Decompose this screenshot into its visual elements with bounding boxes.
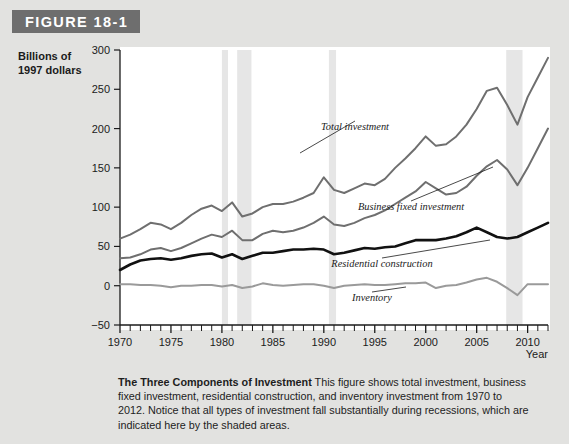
figure-container: FIGURE 18-1 Billions of 1997 dollars −50… xyxy=(0,0,569,444)
y-tick-label: 50 xyxy=(98,240,110,252)
x-axis-ticks: 197019751980198519901995200020052010 xyxy=(108,325,548,348)
x-tick-label: 2010 xyxy=(515,336,539,348)
x-tick-label: 1980 xyxy=(210,336,234,348)
x-tick-label: 1970 xyxy=(108,336,132,348)
x-tick-label: 1985 xyxy=(261,336,285,348)
x-tick-label: 1990 xyxy=(312,336,336,348)
y-tick-label: 150 xyxy=(92,162,110,174)
y-tick-label: 300 xyxy=(92,44,110,56)
y-tick-label: 0 xyxy=(104,280,110,292)
annotation-label: Business fixed investment xyxy=(358,201,465,212)
investment-line-chart: −50050100150200250300 197019751980198519… xyxy=(0,0,569,370)
y-axis-ticks: −50050100150200250300 xyxy=(91,44,120,331)
x-tick-label: 2005 xyxy=(464,336,488,348)
annotation-leader-line xyxy=(382,240,490,258)
caption-title: The Three Components of Investment xyxy=(118,376,312,388)
y-tick-label: −50 xyxy=(91,319,110,331)
x-axis-title: Year xyxy=(526,348,549,360)
x-tick-label: 2000 xyxy=(413,336,437,348)
annotation-label: Residential construction xyxy=(330,258,432,269)
x-tick-label: 1975 xyxy=(159,336,183,348)
annotation-label: Inventory xyxy=(351,292,392,303)
y-tick-label: 250 xyxy=(92,83,110,95)
y-tick-label: 100 xyxy=(92,201,110,213)
x-tick-label: 1995 xyxy=(363,336,387,348)
y-tick-label: 200 xyxy=(92,123,110,135)
annotation-label: Total investment xyxy=(321,121,390,132)
figure-caption: The Three Components of Investment This … xyxy=(118,375,530,432)
